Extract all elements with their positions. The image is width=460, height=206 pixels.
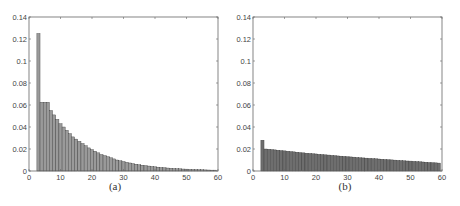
y-tick-label: 0.04 <box>12 123 27 132</box>
chart-caption-a: (a) <box>0 180 230 192</box>
bar <box>65 130 68 171</box>
y-tick-label: 0.02 <box>236 145 251 154</box>
bar <box>390 160 393 171</box>
bar <box>355 157 358 171</box>
bar <box>431 163 434 171</box>
bar <box>270 150 273 171</box>
bar <box>116 160 119 171</box>
y-tick-label: 0.12 <box>12 35 27 44</box>
bar <box>318 154 321 171</box>
bar <box>43 102 46 171</box>
bar <box>314 154 317 171</box>
bar <box>396 160 399 171</box>
bar <box>311 154 314 171</box>
y-tick-label: 0.14 <box>236 13 251 22</box>
bar <box>415 162 418 171</box>
bar <box>321 155 324 172</box>
y-tick-label: 0.06 <box>236 101 251 110</box>
y-tick-label: 0.1 <box>241 57 251 66</box>
chart-panel-b: 010203040506000.020.040.060.080.10.120.1… <box>230 0 460 206</box>
bar <box>40 102 43 171</box>
bar <box>403 161 406 171</box>
chart-caption-b: (b) <box>230 180 460 192</box>
bar <box>103 156 106 171</box>
bar <box>53 115 56 171</box>
bar <box>109 158 112 171</box>
bar <box>292 152 295 171</box>
bar <box>305 153 308 171</box>
bar <box>422 162 425 171</box>
bar <box>336 156 339 171</box>
bar <box>160 167 163 171</box>
bar <box>264 149 267 171</box>
bar <box>90 150 93 171</box>
bar <box>128 163 131 171</box>
bar <box>346 157 349 171</box>
bar <box>362 158 365 171</box>
bar <box>106 157 109 171</box>
bar <box>343 156 346 171</box>
bar <box>434 163 437 171</box>
bar <box>412 161 415 171</box>
bar <box>261 140 264 171</box>
bar <box>144 166 147 171</box>
bar <box>141 165 144 171</box>
y-tick-label: 0.04 <box>236 123 251 132</box>
bar <box>94 151 97 171</box>
bar <box>78 141 81 171</box>
y-tick-label: 0.06 <box>12 101 27 110</box>
bar <box>68 134 71 171</box>
bar <box>37 34 40 172</box>
bar <box>131 164 134 171</box>
bar <box>289 152 292 171</box>
bars <box>261 140 441 171</box>
bar <box>119 161 122 171</box>
axes-box <box>253 17 442 171</box>
bar <box>299 153 302 171</box>
bar <box>349 157 352 171</box>
y-tick-label: 0.08 <box>12 79 27 88</box>
bar <box>138 165 141 171</box>
bar <box>283 151 286 171</box>
y-tick-label: 0.1 <box>17 57 27 66</box>
bar <box>49 111 52 172</box>
y-tick-label: 0 <box>23 167 27 176</box>
bar <box>277 150 280 171</box>
y-tick-label: 0.12 <box>236 35 251 44</box>
bar <box>384 159 387 171</box>
bar <box>365 158 368 171</box>
bar <box>333 156 336 171</box>
bar <box>302 153 305 171</box>
y-tick-label: 0.08 <box>236 79 251 88</box>
bar <box>308 153 311 171</box>
bar <box>330 155 333 171</box>
bar <box>418 162 421 171</box>
bar <box>324 155 327 171</box>
bar <box>135 164 138 171</box>
bars <box>37 34 217 172</box>
bar <box>56 119 59 171</box>
bar <box>280 151 283 171</box>
bar <box>296 152 299 171</box>
bar <box>62 127 65 171</box>
bar <box>100 155 103 172</box>
bar <box>169 168 172 171</box>
bar <box>75 139 78 171</box>
bar <box>437 163 440 171</box>
bar <box>381 159 384 171</box>
bar <box>150 166 153 171</box>
bar <box>286 151 289 171</box>
y-tick-label: 0 <box>247 167 251 176</box>
bar <box>387 160 390 171</box>
bar <box>97 153 100 171</box>
bar <box>393 160 396 171</box>
bar <box>425 162 428 171</box>
bar <box>112 159 115 171</box>
bar <box>371 159 374 171</box>
bar <box>46 102 49 171</box>
y-tick-label: 0.02 <box>12 145 27 154</box>
bar <box>59 124 62 171</box>
bar <box>273 150 276 171</box>
bar <box>368 158 371 171</box>
bar <box>399 161 402 171</box>
